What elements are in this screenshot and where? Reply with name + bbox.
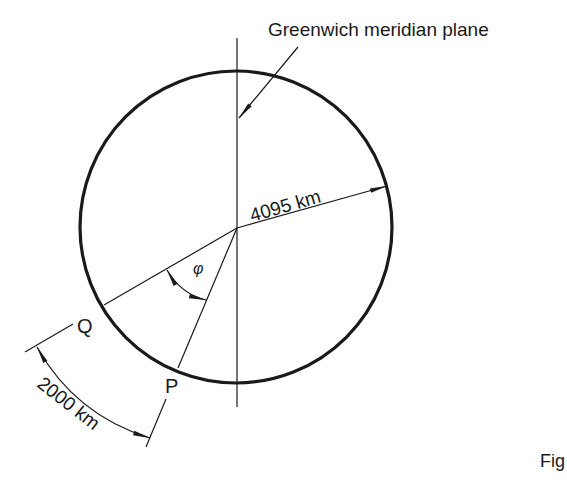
meridian-leader-arrow <box>239 47 298 118</box>
arc-length-label: 2000 km <box>34 373 104 434</box>
radius-to-p <box>178 228 237 368</box>
radius-to-q <box>104 228 237 305</box>
point-p-label: P <box>165 375 178 397</box>
radius-label: 4095 km <box>247 186 323 226</box>
earth-circle <box>80 71 392 383</box>
meridian-plane-label: Greenwich meridian plane <box>268 19 489 40</box>
figure-caption: Fig <box>540 451 565 471</box>
diagram-canvas: Greenwich meridian plane 4095 km φ Q P 2… <box>0 0 567 481</box>
point-q-label: Q <box>77 315 93 337</box>
p-extension-line <box>146 399 166 447</box>
angle-phi-label: φ <box>193 260 203 277</box>
q-extension-line <box>25 324 73 352</box>
